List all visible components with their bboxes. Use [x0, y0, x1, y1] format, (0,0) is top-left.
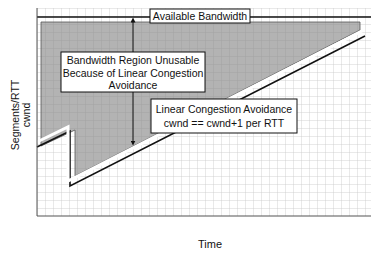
unusable-region-label-line3: Avoidance — [109, 79, 158, 91]
congestion-avoidance-diagram: Available Bandwidth Bandwidth Region Unu… — [0, 0, 371, 261]
linear-ca-label-line2: cwnd == cwnd+1 per RTT — [164, 117, 285, 129]
y-axis-label-line2: cwnd — [20, 103, 32, 128]
available-bandwidth-label: Available Bandwidth — [153, 10, 248, 22]
x-axis-label: Time — [198, 238, 222, 250]
unusable-region-label-line2: Because of Linear Congestion — [63, 67, 204, 79]
linear-ca-label-line1: Linear Congestion Avoidance — [156, 103, 293, 115]
unusable-region-label-line1: Bandwidth Region Unusable — [67, 54, 200, 66]
